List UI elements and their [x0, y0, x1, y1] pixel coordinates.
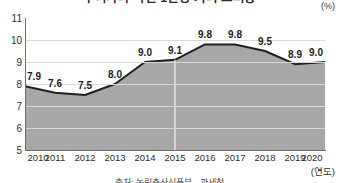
y-axis-tick-labels: 111098765 [0, 0, 22, 183]
value-label-2020: 9.0 [309, 47, 323, 58]
y-tick-label-11: 11 [2, 13, 22, 24]
y-tick-label-8: 8 [2, 79, 22, 90]
value-label-2010: 7.9 [27, 71, 41, 82]
value-label-2018: 9.5 [258, 36, 272, 47]
x-tick-label-2018: 2018 [254, 152, 275, 163]
x-tick-label-2020: 2020 [301, 152, 322, 163]
value-label-2017: 9.8 [228, 29, 242, 40]
x-tick-label-2012: 2012 [74, 152, 95, 163]
value-label-2011: 7.6 [48, 78, 62, 89]
x-tick-label-2015: 2015 [164, 152, 185, 163]
data-value-labels: 7.97.67.58.09.09.19.89.89.58.99.0 [25, 18, 325, 150]
x-tick-label-2014: 2014 [134, 152, 155, 163]
value-label-2013: 8.0 [108, 69, 122, 80]
y-tick-label-6: 6 [2, 123, 22, 134]
y-tick-label-5: 5 [2, 145, 22, 156]
y-tick-label-7: 7 [2, 101, 22, 112]
y-axis-unit-label: (%) [321, 1, 335, 11]
value-label-2012: 7.5 [78, 80, 92, 91]
value-label-2016: 9.8 [198, 29, 212, 40]
x-tick-label-2013: 2013 [104, 152, 125, 163]
chart-figure: 우리나라 국민 1인당 커피 소비량 (%) 111098765 7.97.67… [0, 0, 339, 183]
x-tick-label-2011: 2011 [45, 152, 65, 163]
y-tick-label-10: 10 [2, 35, 22, 46]
x-axis-tick-labels: 2010201120122013201420152016201720182019… [25, 152, 325, 166]
y-tick-label-9: 9 [2, 57, 22, 68]
x-tick-label-2017: 2017 [224, 152, 245, 163]
value-label-2014: 9.0 [138, 47, 152, 58]
value-label-2015: 9.1 [168, 45, 182, 56]
value-label-2019: 8.9 [288, 49, 302, 60]
x-axis-line [25, 150, 326, 151]
chart-title: 우리나라 국민 1인당 커피 소비량 [0, 0, 339, 6]
source-caption: 출처: 농림축산식품부 · 관세청 [0, 176, 339, 183]
x-tick-label-2016: 2016 [194, 152, 215, 163]
